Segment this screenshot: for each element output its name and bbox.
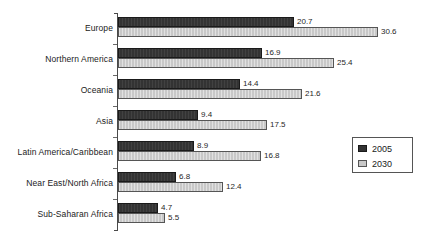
value-label-2030-sub-saharan-africa: 5.5 [168,213,179,223]
value-label-2005-northern-america: 16.9 [265,48,281,58]
bar-2005-latin-america-caribbean [118,141,194,151]
category-axis-labels: Europe Northern America Oceania Asia Lat… [0,14,113,230]
value-label-2030-latin-america-caribbean: 16.8 [264,151,280,161]
value-label-2005-oceania: 14.4 [243,79,259,89]
value-label-2005-asia: 9.4 [201,110,212,120]
bar-2005-near-east-north-africa [118,172,176,182]
axis-tick [113,44,117,45]
bar-2030-asia [118,120,267,130]
axis-tick [113,199,117,200]
bar-2005-northern-america [118,48,262,58]
value-label-2005-latin-america-caribbean: 8.9 [197,141,208,151]
axis-tick [113,75,117,76]
category-label-sub-saharan-africa: Sub-Saharan Africa [0,209,113,219]
category-label-europe: Europe [0,23,113,33]
axis-tick [113,168,117,169]
axis-tick [113,106,117,107]
bar-2005-europe [118,17,294,27]
category-label-oceania: Oceania [0,85,113,95]
bar-2030-sub-saharan-africa [118,213,165,223]
legend-swatch-icon-2030 [358,160,367,167]
value-label-2030-northern-america: 25.4 [337,58,353,68]
value-label-2005-sub-saharan-africa: 4.7 [161,203,172,213]
value-label-2030-asia: 17.5 [270,120,286,130]
bar-2005-sub-saharan-africa [118,203,158,213]
legend-swatch-icon-2005 [358,145,367,152]
bar-2030-northern-america [118,58,334,68]
legend-label-2030: 2030 [372,159,392,169]
category-label-northern-america: Northern America [0,54,113,64]
axis-tick [113,137,117,138]
value-label-2030-oceania: 21.6 [305,89,321,99]
bar-2030-oceania [118,89,302,99]
chart-legend: 2005 2030 [352,137,413,173]
category-label-asia: Asia [0,116,113,126]
bar-2030-near-east-north-africa [118,182,223,192]
category-label-latin-america-caribbean: Latin America/Caribbean [0,147,113,157]
bar-2030-europe [118,27,378,37]
legend-label-2005: 2005 [372,144,392,154]
bar-2005-asia [118,110,198,120]
bar-2030-latin-america-caribbean [118,151,261,161]
category-label-near-east-north-africa: Near East/North Africa [0,178,113,188]
plot-area: 20.7 30.6 16.9 25.4 14.4 21.6 9.4 17.5 8… [118,13,437,231]
value-label-2005-europe: 20.7 [297,17,313,27]
bar-2005-oceania [118,79,240,89]
value-label-2030-near-east-north-africa: 12.4 [226,182,242,192]
legend-item-2030: 2030 [358,157,392,170]
value-label-2030-europe: 30.6 [381,27,397,37]
bar-chart: Europe Northern America Oceania Asia Lat… [0,0,437,246]
legend-item-2005: 2005 [358,142,392,155]
value-label-2005-near-east-north-africa: 6.8 [179,172,190,182]
